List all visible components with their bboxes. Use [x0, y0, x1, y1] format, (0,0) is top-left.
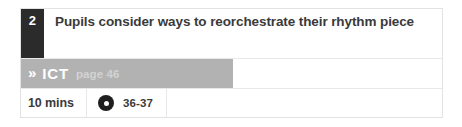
step-number-badge: 2 — [21, 9, 44, 58]
duration-cell: 10 mins — [21, 89, 87, 117]
objective-text: Pupils consider ways to reorchestrate th… — [44, 9, 442, 58]
track-cell: 36-37 — [87, 89, 167, 117]
lesson-activity-card: 2 Pupils consider ways to reorchestrate … — [20, 8, 443, 118]
subject-row: » ICT page 46 — [21, 59, 442, 89]
subject-label: ICT — [42, 65, 69, 82]
empty-cell — [167, 89, 442, 117]
subject-band: » ICT page 46 — [21, 59, 233, 88]
objective-row: 2 Pupils consider ways to reorchestrate … — [21, 9, 442, 59]
disc-icon — [98, 95, 114, 111]
track-range-label: 36-37 — [123, 97, 153, 109]
duration-label: 10 mins — [28, 96, 74, 110]
meta-row: 10 mins 36-37 — [21, 89, 442, 117]
page-reference-label: page 46 — [76, 68, 120, 80]
double-chevron-icon: » — [28, 65, 34, 80]
